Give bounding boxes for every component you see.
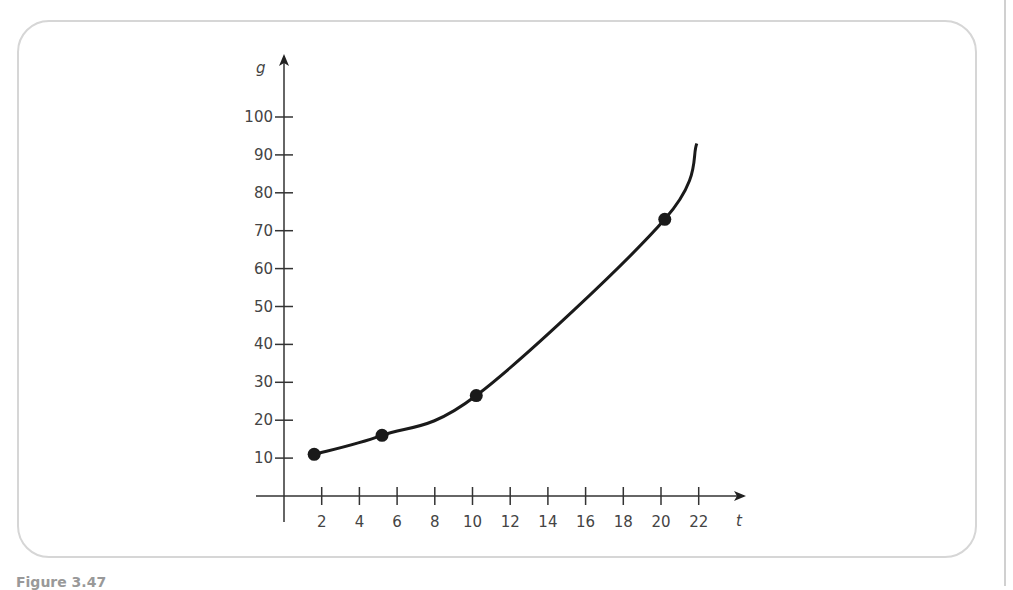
x-axis-label: t bbox=[736, 512, 743, 530]
x-tick-label: 10 bbox=[463, 513, 482, 531]
x-tick-label: 14 bbox=[538, 513, 557, 531]
y-tick-label: 50 bbox=[254, 298, 273, 316]
y-tick-label: 10 bbox=[254, 449, 273, 467]
data-points bbox=[308, 213, 672, 461]
y-tick-label: 70 bbox=[254, 222, 273, 240]
x-tick-label: 6 bbox=[392, 513, 402, 531]
y-axis-label: g bbox=[256, 59, 266, 77]
y-tick-label: 40 bbox=[254, 335, 273, 353]
data-point bbox=[470, 389, 483, 402]
x-tick-label: 20 bbox=[651, 513, 670, 531]
x-tick-label: 16 bbox=[576, 513, 595, 531]
y-ticks: 102030405060708090100 bbox=[244, 108, 293, 467]
x-tick-label: 18 bbox=[614, 513, 633, 531]
x-tick-label: 12 bbox=[501, 513, 520, 531]
x-ticks: 246810121416182022 bbox=[317, 487, 708, 531]
y-tick-label: 60 bbox=[254, 260, 273, 278]
y-tick-label: 80 bbox=[254, 184, 273, 202]
figure-caption: Figure 3.47 bbox=[16, 574, 106, 590]
data-point bbox=[308, 448, 321, 461]
x-tick-label: 8 bbox=[430, 513, 440, 531]
data-curve bbox=[314, 144, 697, 455]
y-tick-label: 30 bbox=[254, 373, 273, 391]
y-tick-label: 90 bbox=[254, 146, 273, 164]
x-tick-label: 2 bbox=[317, 513, 327, 531]
data-point bbox=[658, 213, 671, 226]
y-tick-label: 20 bbox=[254, 411, 273, 429]
data-point bbox=[376, 429, 389, 442]
x-tick-label: 22 bbox=[689, 513, 708, 531]
y-tick-label: 100 bbox=[244, 108, 273, 126]
x-tick-label: 4 bbox=[355, 513, 365, 531]
axes bbox=[256, 56, 744, 522]
